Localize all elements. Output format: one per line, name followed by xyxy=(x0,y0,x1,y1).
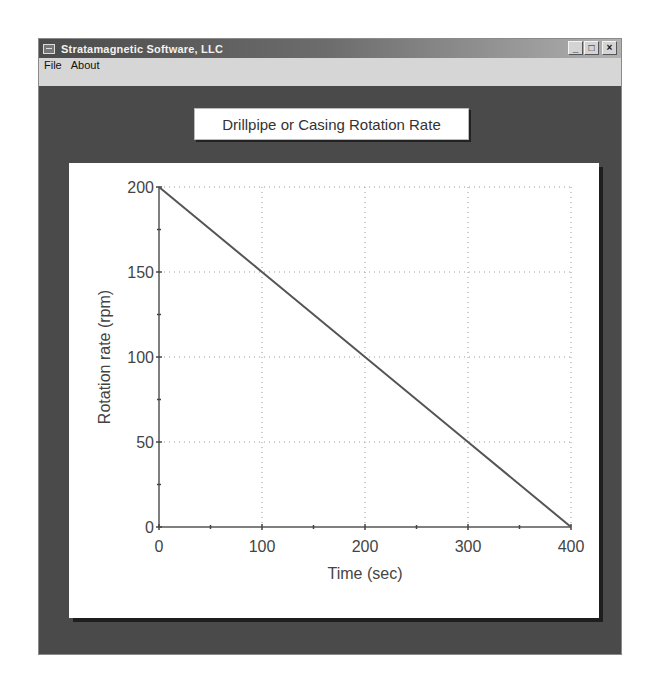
rotation-rate-chart: 0501001502000100200300400Time (sec)Rotat… xyxy=(69,163,599,618)
app-window: Stratamagnetic Software, LLC _ □ × File … xyxy=(38,38,622,655)
x-tick-label: 100 xyxy=(249,538,276,555)
y-tick-label: 150 xyxy=(127,264,154,281)
chart-title: Drillpipe or Casing Rotation Rate xyxy=(194,108,469,140)
y-tick-label: 0 xyxy=(145,519,154,536)
title-bar[interactable]: Stratamagnetic Software, LLC _ □ × xyxy=(39,39,621,58)
x-axis-label: Time (sec) xyxy=(328,565,403,582)
window-controls: _ □ × xyxy=(568,41,617,55)
x-tick-label: 0 xyxy=(155,538,164,555)
x-tick-label: 200 xyxy=(352,538,379,555)
maximize-button[interactable]: □ xyxy=(584,41,599,55)
app-window-icon[interactable] xyxy=(43,44,55,54)
x-tick-label: 300 xyxy=(455,538,482,555)
menu-bar: File About xyxy=(39,58,621,86)
y-tick-label: 50 xyxy=(136,434,154,451)
minimize-button[interactable]: _ xyxy=(568,41,583,55)
x-tick-label: 400 xyxy=(558,538,585,555)
y-tick-label: 200 xyxy=(127,179,154,196)
chart-panel: 0501001502000100200300400Time (sec)Rotat… xyxy=(69,163,599,618)
y-tick-label: 100 xyxy=(127,349,154,366)
menu-file[interactable]: File xyxy=(40,59,66,71)
y-axis-label: Rotation rate (rpm) xyxy=(96,290,113,424)
window-title: Stratamagnetic Software, LLC xyxy=(61,43,223,55)
close-button[interactable]: × xyxy=(602,41,617,55)
menu-about[interactable]: About xyxy=(67,59,104,71)
